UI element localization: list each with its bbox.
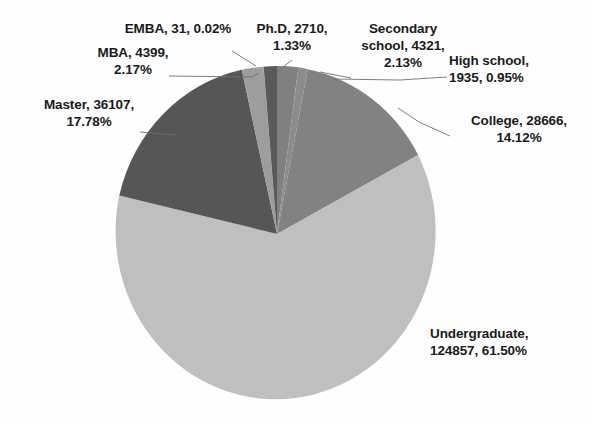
- data-label-phd: Ph.D, 2710, 1.33%: [236, 20, 348, 54]
- data-label-undergraduate: Undergraduate, 124857, 61.50%: [430, 325, 586, 359]
- data-label-master: Master, 36107, 17.78%: [14, 96, 164, 130]
- leader-line-phd: [283, 60, 292, 67]
- data-label-mba: MBA, 4399, 2.17%: [58, 44, 208, 78]
- leader-line-college: [398, 108, 450, 136]
- data-label-college: College, 28666, 14.12%: [452, 112, 586, 146]
- data-label-secondary-school: Secondary school, 4321, 2.13%: [348, 20, 458, 71]
- pie-chart-figure: EMBA, 31, 0.02% MBA, 4399, 2.17% Master,…: [0, 0, 593, 424]
- data-label-high-school: High school, 1935, 0.95%: [449, 52, 585, 86]
